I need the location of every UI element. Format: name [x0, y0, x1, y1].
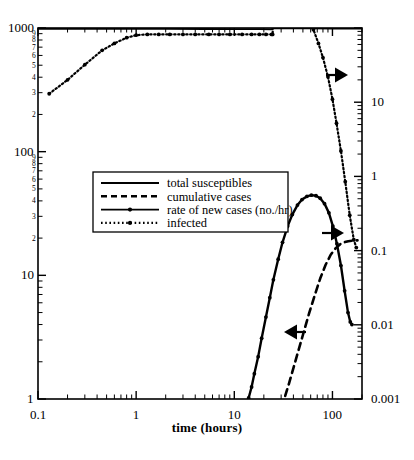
series-marker-1: [307, 18, 311, 22]
series-line-3: [285, 240, 357, 396]
y-left-tick-label-3: 1: [27, 391, 34, 407]
legend-label-1: cumulative cases: [167, 190, 251, 204]
series-marker-1: [66, 78, 70, 82]
series-marker-1: [47, 92, 51, 96]
series-marker-2: [343, 289, 347, 293]
series-marker-2: [256, 355, 260, 359]
series-marker-1: [321, 56, 325, 60]
series-marker-1: [250, 33, 254, 37]
y-right-tick-label-2: 0.1: [371, 243, 387, 259]
series-marker-1: [145, 33, 149, 37]
x-axis-label: time (hours): [0, 420, 414, 436]
arrow-right-infected-head: [335, 68, 348, 83]
y-left-minor-label-1-5: 4: [32, 196, 36, 205]
series-marker-2: [309, 193, 313, 197]
legend-label-3: infected: [167, 216, 208, 230]
series-marker-1: [168, 33, 172, 37]
series-marker-2: [346, 311, 350, 315]
series-marker-1: [240, 33, 244, 37]
legend-marker-2: [128, 208, 132, 212]
series-marker-1: [257, 33, 261, 37]
series-marker-2: [327, 211, 331, 215]
series-marker-2: [264, 315, 268, 319]
series-marker-2: [305, 194, 309, 198]
legend-box: total susceptiblescumulative casesrate o…: [93, 172, 293, 232]
series-marker-2: [350, 323, 354, 327]
series-marker-2: [296, 203, 300, 207]
series-marker-1: [100, 48, 104, 52]
series-marker-2: [300, 198, 304, 202]
y-left-minor-label-1-6: 3: [32, 212, 36, 221]
legend-label-2: rate of new cases (no./hr): [167, 203, 293, 217]
series-marker-2: [252, 372, 256, 376]
y-left-tick-label-1: 100: [14, 144, 34, 160]
y-left-tick-label-0: 1000: [8, 20, 34, 36]
legend-marker-3: [128, 221, 132, 225]
annotation-arrows: [284, 68, 348, 340]
y-left-minor-label-0-4: 5: [32, 61, 36, 70]
series-marker-1: [134, 33, 138, 37]
y-right-tick-label-1: 1: [371, 168, 378, 184]
y-left-minor-label-0-5: 4: [32, 73, 36, 82]
series-marker-1: [157, 33, 161, 37]
figure-root: total susceptiblescumulative casesrate o…: [0, 0, 414, 460]
series-marker-2: [268, 296, 272, 300]
series-marker-2: [314, 194, 318, 198]
y-right-tick-label-3: 0.01: [371, 317, 394, 333]
y-left-tick-label-2: 10: [21, 267, 34, 283]
series-marker-1: [331, 97, 335, 101]
y-left-minor-label-1-4: 5: [32, 184, 36, 193]
series-marker-2: [318, 196, 322, 200]
series-marker-1: [343, 180, 347, 184]
y-left-minor-label-0-3: 6: [32, 51, 36, 60]
series-marker-1: [207, 33, 211, 37]
series-marker-2: [281, 240, 285, 244]
y-right-tick-label-0: 10: [371, 94, 384, 110]
y-right-tick-label-4: 0.001: [371, 391, 400, 407]
series-marker-1: [289, 0, 293, 2]
series-marker-2: [339, 264, 343, 268]
series-marker-2: [276, 257, 280, 261]
series-marker-2: [260, 336, 264, 340]
series-marker-1: [339, 149, 343, 153]
series-marker-1: [264, 33, 268, 37]
y-left-minor-label-1-3: 6: [32, 175, 36, 184]
series-marker-1: [317, 42, 321, 46]
series-marker-1: [125, 36, 129, 40]
arrow-left-rate-head: [284, 325, 297, 340]
series-marker-1: [348, 213, 352, 217]
series-marker-1: [335, 121, 339, 125]
series-marker-2: [323, 202, 327, 206]
series-marker-1: [271, 33, 275, 37]
series-marker-1: [354, 246, 358, 250]
y-left-minor-label-0-6: 3: [32, 88, 36, 97]
series-marker-1: [312, 28, 316, 32]
legend-label-0: total susceptibles: [167, 176, 252, 190]
chart-canvas: total susceptiblescumulative casesrate o…: [0, 0, 414, 460]
series-marker-1: [217, 33, 221, 37]
series-marker-1: [193, 33, 197, 37]
series-marker-1: [301, 9, 305, 13]
y-left-minor-label-0-7: 2: [32, 110, 36, 119]
arrow-right-cumulative-head: [331, 226, 344, 241]
series-marker-2: [271, 278, 275, 282]
series-marker-1: [296, 3, 300, 7]
series-marker-1: [181, 33, 185, 37]
series-marker-1: [83, 63, 87, 67]
series-marker-1: [112, 42, 116, 46]
y-left-minor-label-1-7: 2: [32, 234, 36, 243]
series-marker-1: [228, 33, 232, 37]
series-marker-2: [250, 385, 254, 389]
